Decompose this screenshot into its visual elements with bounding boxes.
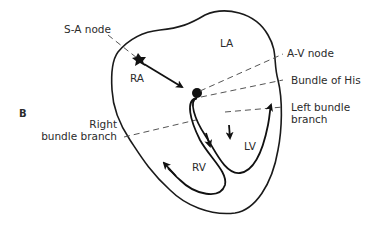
left-bundle-leader-line xyxy=(225,107,283,112)
sa-node-star-icon xyxy=(132,53,146,66)
rv-label: RV xyxy=(192,161,207,173)
ra-label: RA xyxy=(130,72,145,84)
cardiac-conduction-diagram: S-A node RA LA A-V node Bundle of His Le… xyxy=(0,0,370,227)
right-bundle-path xyxy=(168,98,225,194)
right-bundle-label-line2: bundle branch xyxy=(41,130,117,142)
av-node-label: A-V node xyxy=(287,47,334,59)
rv-up-arrow xyxy=(164,163,176,176)
right-bundle-leader-line xyxy=(124,120,196,137)
bundle-of-his-leader-line xyxy=(201,80,283,97)
lv-down-arrow xyxy=(229,125,230,138)
lv-label: LV xyxy=(244,140,257,152)
right-bundle-label-line1: Right xyxy=(89,118,117,130)
rv-down-arrow xyxy=(206,133,210,146)
heart-outline xyxy=(112,11,282,213)
av-node-dot-icon xyxy=(192,88,202,98)
sa-to-av-arrow xyxy=(144,64,182,87)
av-node-leader-line xyxy=(200,54,283,91)
la-label: LA xyxy=(220,37,234,49)
bundle-of-his-label: Bundle of His xyxy=(291,74,361,86)
left-bundle-label-line1: Left bundle xyxy=(291,101,350,113)
panel-label: B xyxy=(19,108,27,119)
sa-node-label: S-A node xyxy=(64,23,111,35)
left-bundle-label-line2: branch xyxy=(291,113,328,125)
